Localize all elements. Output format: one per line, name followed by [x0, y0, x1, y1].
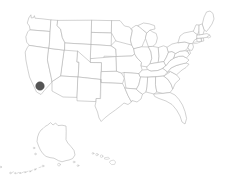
us-locator-map: United States — [0, 0, 237, 183]
island-dot-aleutian-6 — [34, 169, 35, 170]
island-dot-alaska-west-1 — [33, 147, 35, 149]
island-molokai-maui — [105, 157, 110, 159]
island-oahu — [100, 155, 103, 158]
state-south-dakota[interactable] — [91, 32, 111, 45]
state-new-mexico[interactable] — [77, 77, 101, 102]
island-dot-alaska-southeast-1 — [73, 161, 75, 163]
island-niihau — [92, 153, 94, 155]
state-oklahoma[interactable] — [101, 71, 125, 83]
island-kauai — [96, 153, 98, 155]
island-dot-alaska-southeast-2 — [77, 165, 79, 167]
island-dot-aleutian-5 — [29, 171, 30, 172]
island-dot-aleutian-1 — [10, 172, 12, 174]
island-dot-aleutian-4 — [24, 172, 25, 173]
state-north-dakota[interactable] — [92, 20, 112, 33]
island-dot-aleutian-7 — [42, 165, 44, 167]
highlighted-county-marker[interactable] — [36, 82, 45, 91]
island-dot-alaska-west-3 — [0, 166, 1, 167]
highlight-layer — [36, 82, 45, 91]
island-hawaii-big-island — [110, 160, 116, 165]
island-dot-kodiak — [58, 163, 61, 166]
island-dot-aleutian-2 — [15, 173, 16, 174]
island-dot-aleutian-3 — [19, 172, 20, 173]
island-dot-alaska-west-2 — [35, 153, 37, 155]
state-rhode-island[interactable] — [202, 38, 204, 42]
us-map-svg — [0, 0, 237, 183]
state-alabama[interactable] — [146, 77, 157, 94]
state-utah[interactable] — [61, 50, 79, 77]
